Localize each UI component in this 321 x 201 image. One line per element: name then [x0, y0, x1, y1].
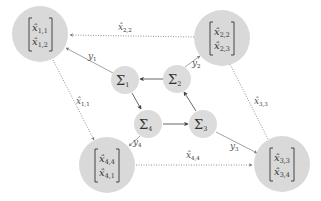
agent-node-1: x̂1,1 x̂1,2: [12, 6, 68, 62]
sum-node-1: Σ1: [111, 66, 139, 94]
agent-node-4: x̂4,4 x̂4,1: [79, 137, 135, 193]
edge-x11: [53, 60, 94, 140]
edge-s3s2: [184, 92, 196, 111]
agent-node-2: x̂2,2 x̂2,3: [194, 10, 250, 66]
sum-node-2: Σ2: [163, 65, 191, 93]
label-y2: y2: [191, 58, 201, 69]
sum-node-4: Σ4: [134, 110, 162, 138]
edge-x22: [70, 35, 194, 37]
label-y1: y1: [87, 51, 97, 62]
edge-s1s4: [132, 93, 141, 109]
label-x44: x̂4,4: [186, 150, 200, 161]
diagram-canvas: x̂1,1 x̂1,2 x̂2,2 x̂2,3 x̂4,4 x̂4,1 x̂3,…: [0, 0, 321, 201]
label-x33: x̂3,3: [254, 96, 268, 107]
agent-node-3: x̂3,3 x̂3,4: [254, 136, 310, 192]
sum-node-3: Σ3: [189, 110, 217, 138]
label-y4: y4: [132, 137, 142, 148]
label-x11: x̂1,1: [76, 96, 90, 107]
label-x22: x̂2,2: [118, 22, 132, 33]
